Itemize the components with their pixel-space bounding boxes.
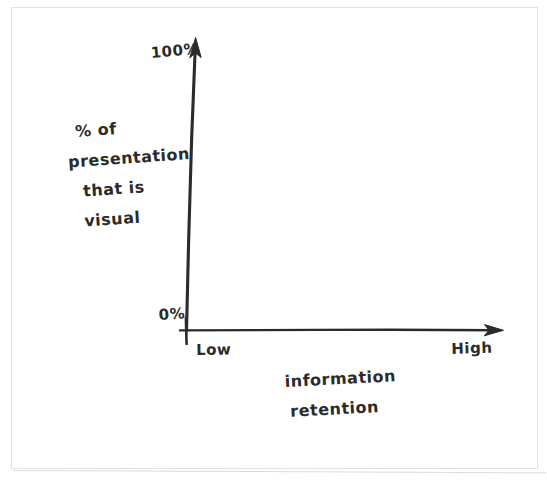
sketch-canvas: 100% 0% % of presentation that is visual… xyxy=(0,0,547,486)
x-axis-title-line-1: information xyxy=(284,361,397,397)
hand-drawn-axes-graphic xyxy=(0,0,547,486)
x-axis-high-tick-label: High xyxy=(451,339,493,358)
y-axis-min-tick-label: 0% xyxy=(158,304,186,324)
x-axis-line xyxy=(180,330,496,331)
x-axis-low-tick-label: Low xyxy=(196,340,232,359)
x-axis-title: information retention xyxy=(284,361,398,427)
y-axis-title: % of presentation that is visual xyxy=(74,109,195,237)
x-axis-title-line-2: retention xyxy=(290,391,399,427)
